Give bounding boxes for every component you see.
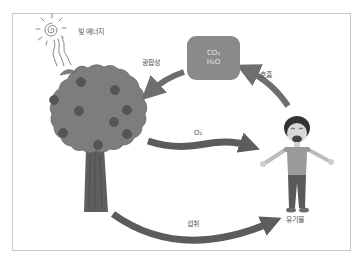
photosynthesis-arrow bbox=[150, 72, 184, 92]
respiration-label: 호흡 bbox=[260, 72, 272, 79]
person-figure bbox=[260, 116, 334, 213]
oxygen-label: O₂ bbox=[194, 130, 202, 137]
tree-trunk bbox=[84, 148, 108, 212]
light-energy-label: 빛 에너지 bbox=[78, 29, 104, 36]
h2o-label: H₂O bbox=[207, 58, 221, 67]
organic-matter-label: 유기물 bbox=[286, 217, 304, 224]
co2-label: CO₂ bbox=[207, 49, 220, 58]
co2-h2o-box: CO₂ H₂O bbox=[187, 36, 240, 80]
photosynthesis-label: 광합성 bbox=[142, 60, 160, 67]
oxygen-arrow bbox=[148, 141, 250, 146]
diagram-stage: CO₂ H₂O 빛 에너지 광합성 호흡 O₂ 섭취 유기물 bbox=[0, 0, 364, 261]
sun-icon bbox=[36, 14, 71, 66]
intake-label: 섭취 bbox=[187, 221, 199, 228]
tree-crown bbox=[50, 65, 147, 153]
diagram-graphics bbox=[0, 0, 364, 261]
